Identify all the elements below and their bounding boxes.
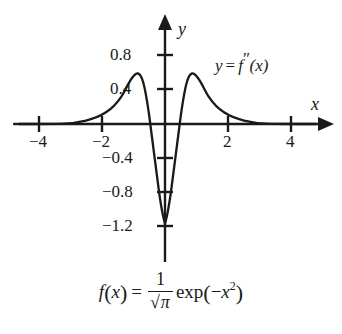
series-label-y: y (215, 56, 223, 75)
formula-minus: − (211, 281, 222, 302)
formula-var: x (221, 281, 229, 302)
formula-pi: π (160, 291, 171, 312)
x-tick-label--4: −4 (29, 133, 47, 150)
formula-arg: (x) (104, 281, 127, 302)
sqrt-icon: √ (150, 292, 160, 312)
y-tick-label--1.2: −1.2 (102, 217, 133, 234)
x-tick-label--2: −2 (92, 133, 110, 150)
formula-close-paren: ) (236, 280, 243, 305)
formula-exp: exp (176, 281, 203, 302)
x-tick-label-2: 2 (223, 133, 232, 150)
y-tick-label-0.4: 0.4 (110, 80, 131, 97)
y-tick-label-0.8: 0.8 (110, 46, 131, 63)
series-label-argument: (x) (249, 56, 268, 75)
y-tick-label--0.4: −0.4 (102, 149, 133, 166)
formula-fraction: 1√π (148, 270, 173, 313)
y-axis-label: y (178, 20, 186, 38)
y-axis-arrowhead (158, 14, 172, 30)
x-axis-arrowhead (318, 117, 334, 131)
x-tick-label-4: 4 (286, 133, 295, 150)
formula-denominator: √π (148, 293, 173, 313)
formula-caption: f(x)=1√πexp(−x2) (0, 272, 342, 315)
formula-open-paren: ( (203, 280, 210, 305)
figure-container: y x 0.8 0.4 −0.4 −0.8 −1.2 −4 −2 2 4 y=f… (0, 0, 342, 334)
y-tick-label--0.8: −0.8 (102, 183, 133, 200)
formula-equals: = (131, 281, 142, 302)
formula-numerator: 1 (148, 270, 173, 289)
series-label-equals: = (226, 56, 236, 75)
x-axis-label: x (311, 95, 319, 113)
series-label: y=f″(x) (215, 50, 268, 74)
